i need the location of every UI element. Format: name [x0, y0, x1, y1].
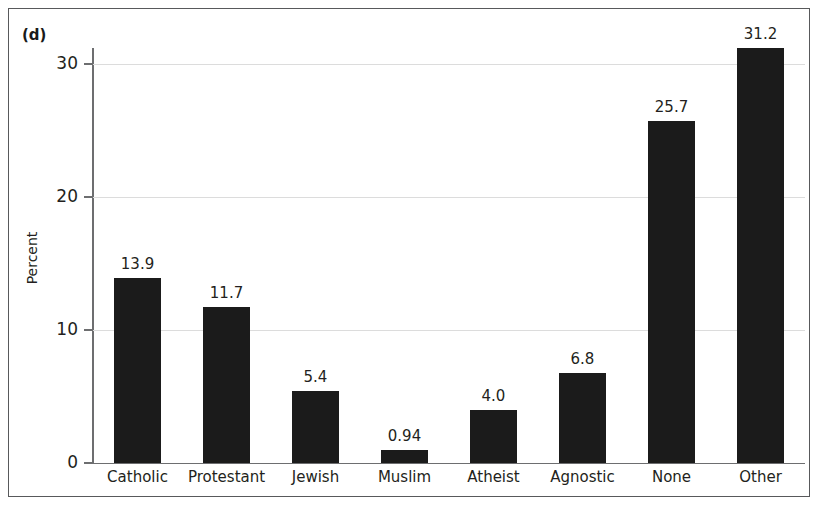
- bar-value-label-protestant: 11.7: [187, 286, 267, 301]
- y-axis-line: [92, 48, 94, 464]
- bar-value-label-other: 31.2: [721, 27, 801, 42]
- bar-protestant[interactable]: [203, 307, 250, 463]
- y-tick-mark-20: [84, 196, 93, 198]
- bar-value-label-jewish: 5.4: [276, 370, 356, 385]
- bar-agnostic[interactable]: [559, 373, 606, 463]
- gridline-20: [93, 197, 805, 198]
- y-tick-mark-10: [84, 329, 93, 331]
- y-tick-label: 10: [38, 321, 78, 338]
- bar-catholic[interactable]: [114, 278, 161, 463]
- gridline-30: [93, 64, 805, 65]
- bar-other[interactable]: [737, 48, 784, 463]
- bar-value-label-atheist: 4.0: [454, 389, 534, 404]
- bar-value-label-catholic: 13.9: [98, 257, 178, 272]
- gridline-10: [93, 330, 805, 331]
- x-axis-label-other: Other: [701, 470, 821, 485]
- bar-atheist[interactable]: [470, 410, 517, 463]
- bar-none[interactable]: [648, 121, 695, 463]
- bar-value-label-none: 25.7: [632, 100, 712, 115]
- y-axis-title: Percent: [24, 208, 40, 308]
- bar-muslim[interactable]: [381, 450, 428, 463]
- bar-value-label-agnostic: 6.8: [543, 352, 623, 367]
- bar-chart-plot-area: Percent 0102030 13.911.75.40.944.06.825.…: [0, 0, 829, 512]
- bar-value-label-muslim: 0.94: [365, 429, 445, 444]
- x-axis-line: [92, 463, 805, 465]
- bar-jewish[interactable]: [292, 391, 339, 463]
- figure-page: (d) Percent 0102030 13.911.75.40.944.06.…: [0, 0, 829, 512]
- y-tick-label: 30: [38, 55, 78, 72]
- y-tick-label: 0: [38, 454, 78, 471]
- y-tick-mark-30: [84, 63, 93, 65]
- y-tick-label: 20: [38, 188, 78, 205]
- y-tick-mark-0: [84, 462, 93, 464]
